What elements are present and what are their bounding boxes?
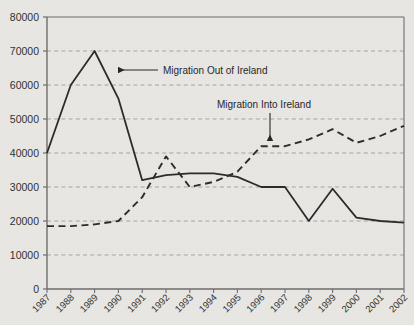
x-axis-tick-label: 1996 xyxy=(244,292,267,315)
chart-canvas: 0100002000030000400005000060000700008000… xyxy=(0,0,414,325)
y-axis-tick-label: 20000 xyxy=(10,215,39,227)
x-axis-tick-label: 1997 xyxy=(268,292,291,315)
y-axis-tick-label: 0 xyxy=(33,283,39,295)
x-axis-tick-label: 1990 xyxy=(101,292,124,315)
y-axis-tick-label: 30000 xyxy=(10,181,39,193)
x-axis-tick-label: 1991 xyxy=(125,292,148,315)
x-axis-tick-label: 1988 xyxy=(53,292,76,315)
x-axis-tick-label: 1995 xyxy=(220,292,243,315)
y-axis-tick-label: 70000 xyxy=(10,45,39,57)
x-axis-tick-label: 2002 xyxy=(387,292,410,315)
y-axis-tick-label: 50000 xyxy=(10,113,39,125)
migration-out-annotation-label: Migration Out of Ireland xyxy=(163,65,268,76)
x-axis-tick-label: 1992 xyxy=(149,292,172,315)
x-axis-tick-label: 2000 xyxy=(339,292,362,315)
series-line-migration-out xyxy=(47,51,404,223)
x-axis-tick-label: 1994 xyxy=(196,292,219,315)
x-axis-tick-label: 2001 xyxy=(363,292,386,315)
migration-line-chart: 0100002000030000400005000060000700008000… xyxy=(0,0,414,325)
y-axis-tick-label: 80000 xyxy=(10,11,39,23)
x-axis-tick-label: 1998 xyxy=(291,292,314,315)
migration-into-annotation-label: Migration Into Ireland xyxy=(217,99,311,110)
x-axis-tick-label: 1999 xyxy=(315,292,338,315)
x-axis-tick-label: 1993 xyxy=(172,292,195,315)
y-axis-tick-label: 40000 xyxy=(10,147,39,159)
y-axis-tick-label: 60000 xyxy=(10,79,39,91)
x-axis-tick-label: 1989 xyxy=(77,292,100,315)
y-axis-tick-label: 10000 xyxy=(10,249,39,261)
x-axis-tick-label: 1987 xyxy=(30,292,53,315)
